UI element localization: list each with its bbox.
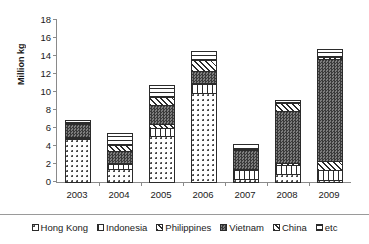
x-axis-label: 2005 (140, 188, 182, 202)
legend-label: Philippines (165, 222, 211, 234)
y-tick-label: 12 (40, 67, 51, 80)
y-tick-label: 10 (40, 85, 51, 98)
legend-item[interactable]: Hong Kong (32, 222, 89, 234)
legend-swatch (156, 224, 163, 231)
bar-segment[interactable] (149, 105, 175, 125)
y-tick-label: 0 (46, 175, 51, 188)
x-axis-labels: 2003200420052006200720082009 (56, 188, 350, 204)
bar-group[interactable] (317, 49, 343, 182)
legend-label: China (282, 222, 307, 234)
legend-label: Hong Kong (41, 222, 89, 234)
bars-layer (57, 20, 351, 182)
chart-legend: Hong KongIndonesiaPhilippinesVietnamChin… (0, 214, 369, 236)
bar-segment[interactable] (275, 174, 301, 183)
legend-swatch (220, 224, 227, 231)
bar-segment[interactable] (65, 124, 91, 138)
bar-segment[interactable] (191, 93, 217, 183)
x-axis-label: 2009 (308, 188, 350, 202)
x-axis-separator (225, 182, 226, 186)
legend-item[interactable]: Indonesia (97, 222, 147, 234)
bar-group[interactable] (191, 51, 217, 182)
y-axis-title: Million kg (14, 24, 28, 104)
legend-item[interactable]: Philippines (156, 222, 211, 234)
stacked-bar-chart: Million kg 181614121086420 2003200420052… (0, 0, 369, 244)
bar-segment[interactable] (317, 59, 343, 162)
x-axis-label: 2007 (224, 188, 266, 202)
y-tick-label: 18 (40, 13, 51, 26)
bar-segment[interactable] (107, 133, 133, 147)
bar-segment[interactable] (233, 179, 259, 184)
legend-swatch (316, 224, 323, 231)
y-tick-label: 6 (46, 121, 51, 134)
x-axis-separator (309, 182, 310, 186)
y-tick-label: 14 (40, 49, 51, 62)
x-axis-separator (99, 182, 100, 186)
y-tick-label: 4 (46, 139, 51, 152)
x-axis-separator (267, 182, 268, 186)
plot-area: 181614121086420 (56, 20, 351, 183)
x-axis-separator (141, 182, 142, 186)
bar-segment[interactable] (233, 150, 259, 170)
bar-segment[interactable] (107, 151, 133, 165)
legend-label: Indonesia (106, 222, 147, 234)
legend-swatch (97, 224, 104, 231)
legend-item[interactable]: Vietnam (220, 222, 264, 234)
legend-label: Vietnam (229, 222, 264, 234)
bar-group[interactable] (233, 144, 259, 182)
x-axis-label: 2008 (266, 188, 308, 202)
x-axis-label: 2004 (98, 188, 140, 202)
y-tick-label: 8 (46, 103, 51, 116)
legend-swatch (273, 224, 280, 231)
y-tick-label: 2 (46, 157, 51, 170)
bar-segment[interactable] (65, 139, 91, 183)
bar-group[interactable] (275, 100, 301, 182)
legend-item[interactable]: etc (316, 222, 338, 234)
legend-swatch (32, 224, 39, 231)
bar-group[interactable] (149, 85, 175, 182)
x-axis-label: 2003 (56, 188, 98, 202)
legend-item[interactable]: China (273, 222, 307, 234)
x-axis-label: 2006 (182, 188, 224, 202)
bar-segment[interactable] (149, 136, 175, 183)
x-axis-separator (183, 182, 184, 186)
y-tick-label: 16 (40, 31, 51, 44)
bar-segment[interactable] (191, 71, 217, 85)
legend-label: etc (325, 222, 338, 234)
bar-segment[interactable] (317, 180, 343, 183)
bar-group[interactable] (65, 120, 91, 182)
bar-group[interactable] (107, 133, 133, 182)
bar-segment[interactable] (275, 111, 301, 164)
bar-segment[interactable] (107, 169, 133, 183)
